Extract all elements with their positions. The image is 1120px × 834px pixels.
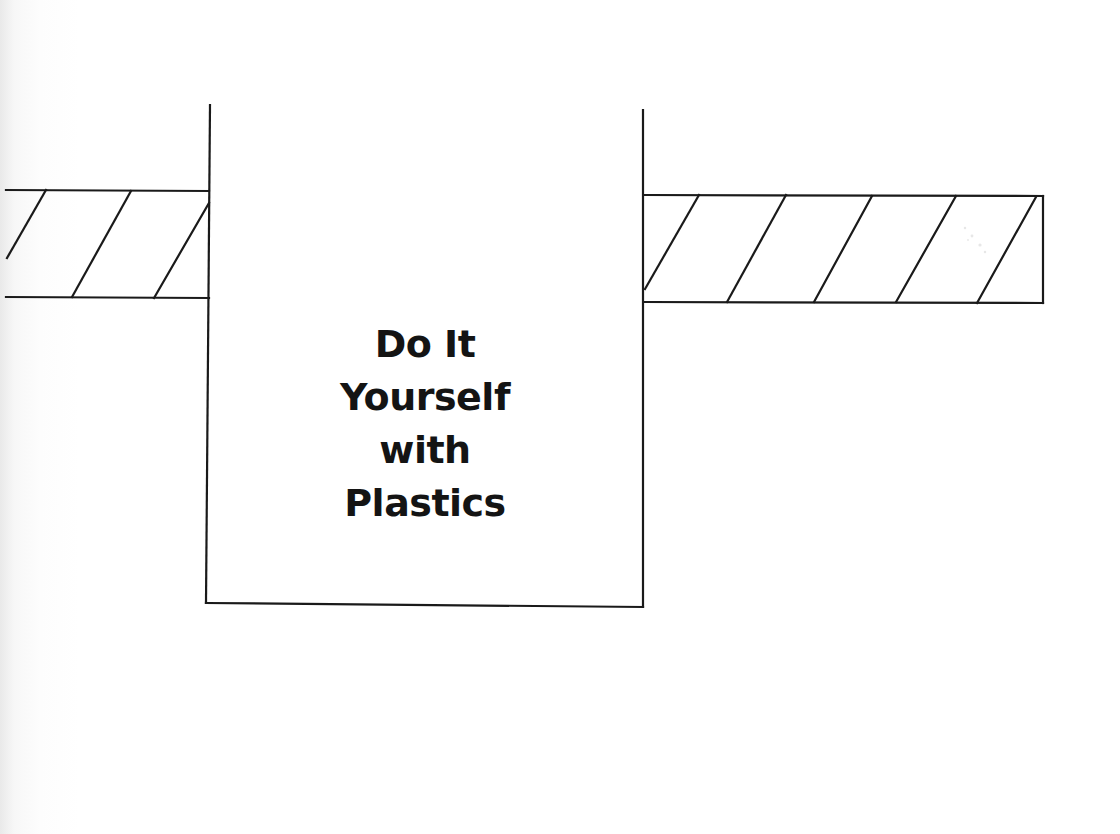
right-hatched-bar bbox=[645, 195, 1043, 303]
left-hatched-bar bbox=[6, 190, 209, 298]
title-line-2: Yourself bbox=[270, 371, 580, 424]
title-line-3: with bbox=[270, 424, 580, 477]
print-speckle bbox=[964, 227, 986, 253]
title-line-1: Do It bbox=[270, 318, 580, 371]
book-title: Do It Yourself with Plastics bbox=[270, 318, 580, 530]
title-line-4: Plastics bbox=[270, 477, 580, 530]
